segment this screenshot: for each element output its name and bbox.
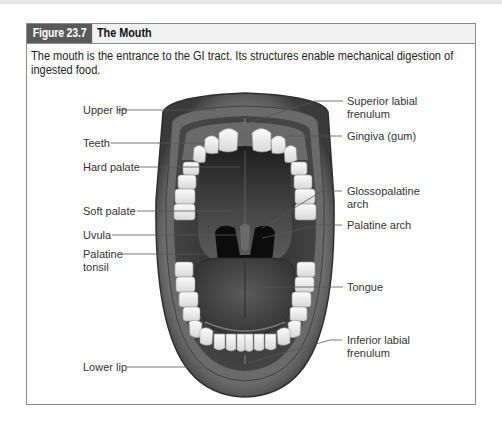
label-teeth: Teeth	[83, 137, 110, 150]
label-superior-labial-frenulum-line1: Superior labial	[347, 95, 417, 108]
uvula	[240, 224, 250, 251]
label-palatine-tonsil: Palatine tonsil	[83, 248, 123, 273]
label-superior-labial-frenulum-line2: frenulum	[347, 108, 417, 121]
label-palatine-arch: Palatine arch	[347, 219, 411, 232]
label-soft-palate: Soft palate	[83, 205, 136, 218]
label-palatine-tonsil-line1: Palatine	[83, 248, 123, 261]
label-palatine-tonsil-line2: tonsil	[83, 261, 123, 274]
label-gingiva: Gingiva (gum)	[347, 130, 416, 143]
label-hard-palate: Hard palate	[83, 161, 140, 174]
label-glossopalatine-arch-line1: Glossopalatine	[347, 185, 420, 198]
label-uvula: Uvula	[83, 229, 111, 242]
label-glossopalatine-arch: Glossopalatine arch	[347, 185, 420, 210]
label-superior-labial-frenulum: Superior labial frenulum	[347, 95, 417, 120]
label-tongue: Tongue	[347, 281, 383, 294]
label-inferior-labial-frenulum: Inferior labial frenulum	[347, 334, 410, 359]
label-upper-lip: Upper lip	[83, 104, 127, 117]
label-inferior-labial-frenulum-line2: frenulum	[347, 347, 410, 360]
label-lower-lip: Lower lip	[83, 361, 127, 374]
label-glossopalatine-arch-line2: arch	[347, 198, 420, 211]
label-inferior-labial-frenulum-line1: Inferior labial	[347, 334, 410, 347]
mouth-illustration	[0, 0, 502, 426]
